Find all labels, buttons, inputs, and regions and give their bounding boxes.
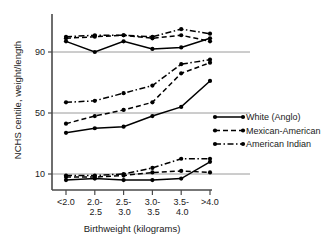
legend-marker <box>241 142 245 146</box>
series-line-1-band-1 <box>66 63 210 124</box>
legend-marker <box>241 128 245 132</box>
legend-label-0: White (Anglo) <box>246 112 301 122</box>
data-point <box>179 27 183 31</box>
data-point <box>208 32 212 36</box>
data-point <box>93 99 97 103</box>
data-point <box>122 108 126 112</box>
data-point <box>150 114 154 118</box>
y-tick-label-10: 10 <box>35 169 45 179</box>
x-tick-label-4: 3.5- <box>173 197 189 207</box>
grid-lines <box>52 52 250 174</box>
data-point <box>122 172 126 176</box>
data-point <box>64 122 68 126</box>
series-line-2-band-2 <box>66 159 210 176</box>
data-point <box>179 176 183 180</box>
y-axis-title: NCHS centile, weight/length <box>12 41 23 159</box>
x-tick-label-3: 3.0- <box>145 197 161 207</box>
data-point <box>93 114 97 118</box>
data-point <box>179 169 183 173</box>
data-point <box>150 47 154 51</box>
series-line-0-band-0 <box>66 38 210 52</box>
data-point <box>93 33 97 37</box>
series-line-2-band-0 <box>66 29 210 37</box>
data-point <box>208 157 212 161</box>
x-tick-label-2-line2: 3.0 <box>118 207 131 217</box>
data-point <box>208 79 212 83</box>
data-point <box>122 33 126 37</box>
data-point <box>122 125 126 129</box>
data-point <box>122 91 126 95</box>
data-point <box>179 157 183 161</box>
data-point <box>208 58 212 62</box>
y-tick-label-90: 90 <box>35 47 45 57</box>
data-series <box>64 27 212 182</box>
legend-label-1: Mexican-American <box>246 126 321 136</box>
x-tick-label-4-line2: 4.0 <box>176 207 189 217</box>
x-tick-label-1-line2: 2.5 <box>90 207 103 217</box>
x-tick-label-5: >4.0 <box>201 197 219 207</box>
data-point <box>122 178 126 182</box>
series-line-2-band-1 <box>66 60 210 103</box>
legend-marker <box>213 142 217 146</box>
data-point <box>179 62 183 66</box>
data-point <box>150 100 154 104</box>
data-point <box>208 39 212 43</box>
chart-legend: White (Anglo)Mexican-AmericanAmerican In… <box>213 112 321 149</box>
x-tick-label-3-line2: 3.5 <box>147 207 160 217</box>
data-point <box>179 71 183 75</box>
data-point <box>64 131 68 135</box>
chart-figure: <2.02.0-2.52.5-3.03.0-3.53.5-4.0>4.0 905… <box>0 0 335 241</box>
data-point <box>93 126 97 130</box>
data-point <box>122 39 126 43</box>
data-point <box>93 173 97 177</box>
data-point <box>150 166 154 170</box>
y-tick-label-50: 50 <box>35 108 45 118</box>
data-point <box>150 35 154 39</box>
data-point <box>150 170 154 174</box>
data-point <box>179 105 183 109</box>
legend-marker <box>213 115 217 119</box>
x-tick-label-1: 2.0- <box>87 197 103 207</box>
data-point <box>179 33 183 37</box>
data-point <box>208 170 212 174</box>
x-tick-label-2: 2.5- <box>116 197 132 207</box>
line-chart: <2.02.0-2.52.5-3.03.0-3.53.5-4.0>4.0 905… <box>0 0 335 241</box>
data-point <box>64 35 68 39</box>
data-point <box>64 173 68 177</box>
legend-marker <box>241 115 245 119</box>
legend-label-2: American Indian <box>246 139 311 149</box>
data-point <box>150 83 154 87</box>
y-axis-tick-labels: 905010 <box>35 47 45 179</box>
legend-marker <box>213 128 217 132</box>
x-tick-label-0: <2.0 <box>57 197 75 207</box>
data-point <box>93 50 97 54</box>
data-point <box>64 100 68 104</box>
data-point <box>150 178 154 182</box>
x-axis-title: Birthweight (kilograms) <box>84 223 181 234</box>
axes <box>52 14 212 190</box>
data-point <box>179 45 183 49</box>
x-axis-tick-labels: <2.02.0-2.52.5-3.03.0-3.53.5-4.0>4.0 <box>57 197 219 217</box>
